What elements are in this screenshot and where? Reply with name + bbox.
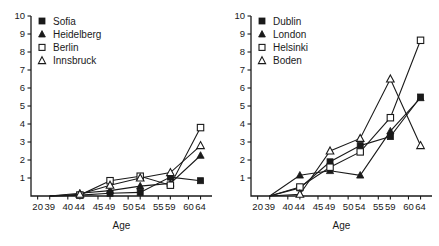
x-tick-label: 55 (153, 201, 164, 212)
y-tick-label: 6 (240, 82, 245, 93)
y-tick-label: 2 (20, 154, 25, 165)
x-tick-label: 45 (93, 201, 104, 212)
line-chart-right: 12345678910203940444549505455596064AgeDu… (220, 0, 439, 246)
y-tick-label: 4 (240, 118, 245, 129)
data-point-marker-helsinki (417, 37, 423, 43)
y-tick-label: 10 (234, 10, 245, 21)
x-tick-label: 44 (295, 201, 306, 212)
x-tick-label: 44 (75, 201, 86, 212)
x-tick-label: 55 (373, 201, 384, 212)
x-tick-label: 54 (355, 201, 366, 212)
x-tick-label: 50 (123, 201, 134, 212)
data-point-marker-sofia (137, 189, 143, 195)
y-tick-label: 7 (240, 64, 245, 75)
line-chart-left: 12345678910203940444549505455596064AgeSo… (0, 0, 219, 246)
data-point-marker-heidelberg (197, 152, 204, 159)
x-tick-label: 59 (165, 201, 176, 212)
y-tick-label: 1 (240, 172, 245, 183)
y-tick-label: 3 (20, 136, 25, 147)
legend-label-berlin: Berlin (53, 42, 79, 53)
y-tick-label: 8 (240, 46, 245, 57)
y-tick-label: 6 (20, 82, 25, 93)
x-tick-label: 60 (183, 201, 194, 212)
series-line-dublin (270, 97, 421, 196)
x-tick-label: 45 (313, 201, 324, 212)
chart-panel-left: 12345678910203940444549505455596064AgeSo… (0, 0, 219, 246)
data-point-marker-dublin (357, 143, 363, 149)
x-tick-label: 54 (135, 201, 146, 212)
x-tick-label: 59 (385, 201, 396, 212)
data-point-marker-helsinki (387, 115, 393, 121)
chart-panel-right: 12345678910203940444549505455596064AgeDu… (220, 0, 439, 246)
data-point-marker-helsinki (357, 149, 363, 155)
y-tick-label: 5 (240, 100, 245, 111)
series-line-boden (270, 79, 421, 196)
x-tick-label: 39 (264, 201, 275, 212)
y-tick-label: 9 (240, 28, 245, 39)
data-point-marker-boden (356, 134, 364, 141)
x-tick-label: 20 (252, 201, 263, 212)
y-tick-label: 7 (20, 64, 25, 75)
y-tick-label: 4 (20, 118, 25, 129)
data-point-marker-dublin (387, 134, 393, 140)
x-tick-label: 40 (283, 201, 294, 212)
series-line-sofia (50, 177, 201, 196)
x-tick-label: 49 (325, 201, 336, 212)
y-tick-label: 5 (20, 100, 25, 111)
legend-label-helsinki: Helsinki (273, 42, 308, 53)
data-point-marker-sofia (198, 178, 204, 184)
x-tick-label: 64 (195, 201, 206, 212)
figure-two-panel-line-charts: 12345678910203940444549505455596064AgeSo… (0, 0, 439, 246)
y-tick-label: 10 (14, 10, 25, 21)
data-point-marker-boden (387, 75, 395, 82)
x-tick-label: 50 (343, 201, 354, 212)
legend-label-dublin: Dublin (273, 16, 301, 27)
legend-label-heidelberg: Heidelberg (53, 29, 101, 40)
series-line-heidelberg (50, 156, 201, 197)
legend-label-london: London (273, 29, 306, 40)
legend-label-innsbruck: Innsbruck (53, 55, 97, 66)
data-point-marker-boden (417, 142, 425, 149)
y-tick-label: 2 (240, 154, 245, 165)
x-tick-label: 64 (415, 201, 426, 212)
x-tick-label: 40 (63, 201, 74, 212)
x-axis-title: Age (113, 220, 131, 231)
y-tick-label: 9 (20, 28, 25, 39)
data-point-marker-boden (326, 147, 334, 154)
y-tick-label: 8 (20, 46, 25, 57)
series-line-berlin (50, 128, 201, 196)
legend-label-sofia: Sofia (53, 16, 76, 27)
data-point-marker-innsbruck (197, 142, 205, 149)
data-point-marker-berlin (167, 182, 173, 188)
legend-label-boden: Boden (273, 55, 302, 66)
data-point-marker-helsinki (327, 164, 333, 170)
x-tick-label: 60 (403, 201, 414, 212)
series-line-london (270, 98, 421, 196)
y-tick-label: 3 (240, 136, 245, 147)
y-tick-label: 1 (20, 172, 25, 183)
data-point-marker-berlin (197, 124, 203, 130)
x-tick-label: 49 (105, 201, 116, 212)
x-axis-title: Age (333, 220, 351, 231)
x-tick-label: 20 (32, 201, 43, 212)
x-tick-label: 39 (44, 201, 55, 212)
